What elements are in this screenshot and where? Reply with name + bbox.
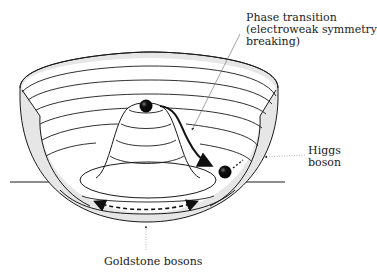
higgs-leader: [265, 155, 305, 157]
higgs-boson-label: Higgs boson: [308, 145, 341, 169]
goldstone-bosons-line1: Goldstone bosons: [104, 256, 202, 268]
ball-higgs-icon: [219, 166, 232, 179]
phase-transition-label: Phase transition (electroweak symmetry b…: [246, 12, 377, 48]
goldstone-bosons-label: Goldstone bosons: [104, 256, 202, 268]
higgs-boson-line2: boson: [308, 157, 341, 169]
phase-transition-line3: breaking): [246, 36, 377, 48]
ball-unstable-icon: [140, 100, 153, 113]
